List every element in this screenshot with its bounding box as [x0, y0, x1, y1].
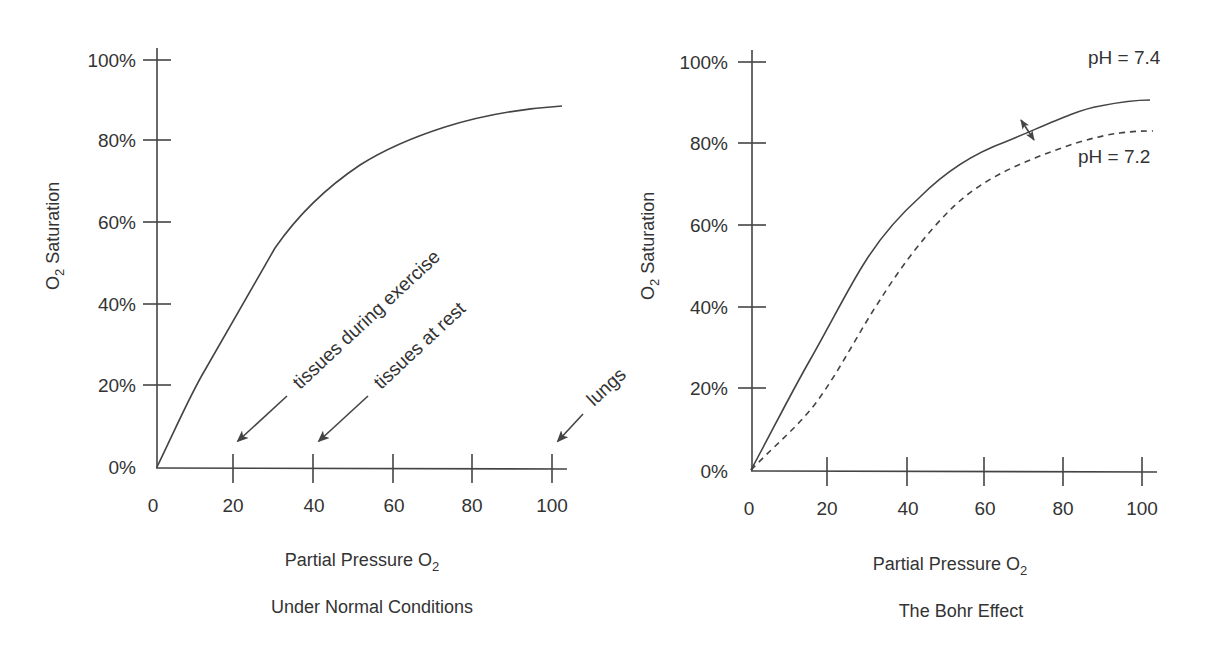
- x-tick-label: 20: [222, 495, 243, 516]
- x-tick-label: 40: [897, 498, 918, 519]
- x-axis-label: Partial Pressure O2: [285, 550, 439, 574]
- annotation-lungs: lungs: [558, 364, 630, 441]
- chart-title: The Bohr Effect: [899, 601, 1024, 621]
- x-tick-labels: 0 20 40 60 80 100: [148, 495, 568, 516]
- x-axis-label: Partial Pressure O2: [873, 554, 1027, 578]
- y-tick-label: 80%: [690, 133, 728, 154]
- curve-ph-7-2: [751, 131, 1153, 470]
- x-tick-label: 0: [148, 495, 159, 516]
- x-tick-label: 80: [1052, 498, 1073, 519]
- x-tick-label: 100: [1126, 498, 1158, 519]
- x-tick-label: 20: [816, 498, 837, 519]
- annotation-rest: tissues at rest: [319, 297, 470, 441]
- x-tick-label: 100: [536, 495, 568, 516]
- x-tick-label: 60: [974, 498, 995, 519]
- legend-ph-7-2: pH = 7.2: [1078, 146, 1150, 167]
- y-tick-label: 20%: [690, 378, 728, 399]
- legend-ph-7-4: pH = 7.4: [1088, 47, 1161, 68]
- y-tick-label: 0%: [109, 457, 137, 478]
- y-tick-label: 60%: [690, 215, 728, 236]
- y-tick-label: 20%: [98, 375, 136, 396]
- y-tick-labels: 100% 80% 60% 40% 20% 0%: [679, 52, 728, 482]
- x-tick-label: 0: [744, 498, 755, 519]
- y-tick-labels: 100% 80% 60% 40% 20% 0%: [87, 50, 136, 478]
- x-axis: [751, 471, 1157, 472]
- y-tick-label: 80%: [98, 130, 136, 151]
- y-axis-label: O2 Saturation: [43, 182, 67, 290]
- chart-bohr-effect: 100% 80% 60% 40% 20% 0% 0 20 40 60 80 10…: [638, 47, 1161, 621]
- y-tick-label: 100%: [679, 52, 728, 73]
- figure: 100% 80% 60% 40% 20% 0% 0 20 40 60 80 10…: [0, 0, 1208, 661]
- y-axis-label: O2 Saturation: [638, 192, 662, 300]
- x-tick-label: 60: [383, 495, 404, 516]
- x-tick-label: 80: [461, 495, 482, 516]
- arrow-icon: [238, 396, 287, 441]
- annotation-label: lungs: [582, 364, 630, 410]
- x-tick-labels: 0 20 40 60 80 100: [744, 498, 1158, 519]
- arrow-icon: [319, 396, 368, 441]
- x-axis: [156, 468, 567, 469]
- x-tick-label: 40: [303, 495, 324, 516]
- y-tick-label: 100%: [87, 50, 136, 71]
- arrow-icon: [558, 414, 583, 441]
- y-tick-label: 40%: [98, 294, 136, 315]
- y-tick-label: 60%: [98, 212, 136, 233]
- saturation-curve: [157, 106, 562, 467]
- chart-normal-conditions: 100% 80% 60% 40% 20% 0% 0 20 40 60 80 10…: [43, 48, 630, 617]
- chart-title: Under Normal Conditions: [271, 597, 473, 617]
- annotation-label: tissues during exercise: [288, 246, 444, 393]
- y-tick-label: 40%: [690, 297, 728, 318]
- y-tick-label: 0%: [701, 461, 729, 482]
